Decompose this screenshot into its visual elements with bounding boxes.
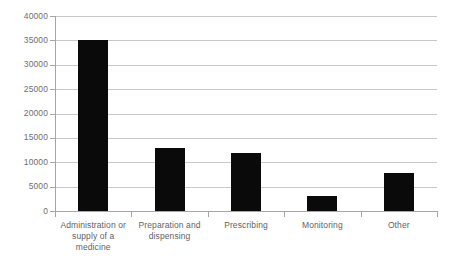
gridline (55, 89, 437, 90)
y-axis-tick (50, 114, 55, 115)
y-axis-tick-label: 0 (4, 207, 48, 216)
x-axis-labels: Administration or supply of a medicinePr… (55, 220, 438, 265)
x-axis-category-label: Preparation and dispensing (131, 220, 207, 242)
x-axis-category-label: Administration or supply of a medicine (55, 220, 131, 253)
bar (155, 148, 185, 211)
x-axis-tick (437, 212, 438, 217)
x-axis-tick (55, 212, 56, 217)
y-axis-tick (50, 40, 55, 41)
x-axis-category-label: Monitoring (284, 220, 360, 231)
x-axis-category-label: Prescribing (208, 220, 284, 231)
bar (231, 153, 261, 212)
x-axis-line (55, 211, 438, 212)
bar (307, 196, 337, 211)
y-axis-tick-label: 15000 (4, 133, 48, 142)
gridline (55, 65, 437, 66)
y-axis-tick (50, 162, 55, 163)
bar (78, 40, 108, 211)
bar (384, 173, 414, 211)
bar-chart: 0500010000150002000025000300003500040000… (0, 0, 450, 265)
gridline (55, 40, 437, 41)
x-axis-tick (284, 212, 285, 217)
x-axis-tick (131, 212, 132, 217)
x-axis-category-label: Other (361, 220, 437, 231)
y-axis-tick-label: 5000 (4, 182, 48, 191)
y-axis-tick-label: 25000 (4, 85, 48, 94)
x-axis-tick (208, 212, 209, 217)
y-axis-tick (50, 89, 55, 90)
gridline (55, 114, 437, 115)
y-axis-tick (50, 16, 55, 17)
y-axis-tick-label: 30000 (4, 60, 48, 69)
plot-area (55, 16, 437, 211)
y-axis-tick (50, 65, 55, 66)
x-axis-tick (361, 212, 362, 217)
y-axis-tick-label: 10000 (4, 158, 48, 167)
y-axis-tick (50, 187, 55, 188)
y-axis-labels: 0500010000150002000025000300003500040000 (0, 0, 48, 265)
y-axis-tick (50, 138, 55, 139)
y-axis-tick-label: 40000 (4, 12, 48, 21)
y-axis-tick-label: 35000 (4, 36, 48, 45)
y-axis-line (55, 16, 56, 212)
gridline (55, 138, 437, 139)
gridline (55, 16, 437, 17)
y-axis-tick-label: 20000 (4, 109, 48, 118)
